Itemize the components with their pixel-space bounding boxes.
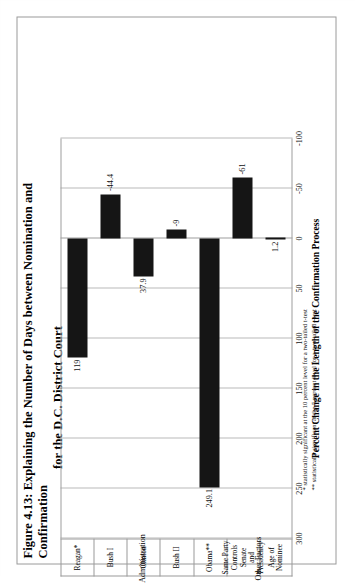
bar bbox=[166, 229, 186, 238]
bar-value-label: 1.2 bbox=[270, 241, 279, 259]
category-label: Reagan* bbox=[73, 544, 82, 570]
value-tick-label: 300 bbox=[294, 532, 303, 544]
bar bbox=[232, 177, 252, 238]
category-label: Bush I bbox=[106, 547, 115, 567]
category-label-cell: Age of Nominee bbox=[259, 538, 292, 576]
category-label-cell: Bush II bbox=[159, 538, 192, 576]
gridline-100 bbox=[60, 337, 292, 338]
bar bbox=[133, 238, 153, 276]
category-label-cell: Reagan* bbox=[60, 538, 93, 576]
gridline-250 bbox=[60, 487, 292, 488]
value-tick-label: -50 bbox=[294, 183, 303, 194]
footnote-two-star: ** statistically significant at the 5 pe… bbox=[309, 309, 318, 490]
bar bbox=[67, 238, 87, 357]
bar-value-label: 37.9 bbox=[138, 278, 147, 296]
gridline--100 bbox=[60, 137, 292, 138]
bar bbox=[100, 194, 120, 238]
axis-rule bbox=[291, 138, 292, 538]
group-label-1: Administration bbox=[137, 510, 146, 587]
category-label: Obama** bbox=[205, 543, 214, 572]
bar bbox=[265, 237, 285, 240]
bar-value-label: 119 bbox=[72, 359, 81, 377]
category-label: Bush II bbox=[172, 546, 181, 568]
gridline-50 bbox=[60, 287, 292, 288]
value-tick-label: 50 bbox=[294, 284, 303, 292]
bar-value-label: 249.1 bbox=[204, 489, 213, 507]
figure-title-line-1: Figure 4.13: Explaining the Number of Da… bbox=[20, 182, 49, 558]
bar-value-label: -9 bbox=[171, 219, 180, 226]
gridline-150 bbox=[60, 387, 292, 388]
gridline-200 bbox=[60, 437, 292, 438]
axis-rule bbox=[60, 138, 61, 538]
bar-value-label: -44.4 bbox=[105, 173, 114, 190]
footnote-one-star: * statistically significant at the 10 pe… bbox=[300, 309, 309, 490]
bar bbox=[199, 238, 219, 487]
group-label-2: Other Factors bbox=[253, 510, 262, 587]
value-tick-label: 0 bbox=[294, 236, 303, 240]
category-label-cell: Bush I bbox=[93, 538, 126, 576]
gridline--50 bbox=[60, 187, 292, 188]
figure-title: Figure 4.13: Explaining the Number of Da… bbox=[20, 178, 65, 558]
plot-area: 119-44.437.9-9249.1-611.2 bbox=[60, 138, 292, 538]
bar-value-label: -61 bbox=[237, 163, 246, 174]
figure-footnotes: * statistically significant at the 10 pe… bbox=[300, 309, 318, 490]
value-tick-label: -100 bbox=[294, 130, 303, 145]
category-label: Age of Nominee bbox=[267, 538, 284, 576]
